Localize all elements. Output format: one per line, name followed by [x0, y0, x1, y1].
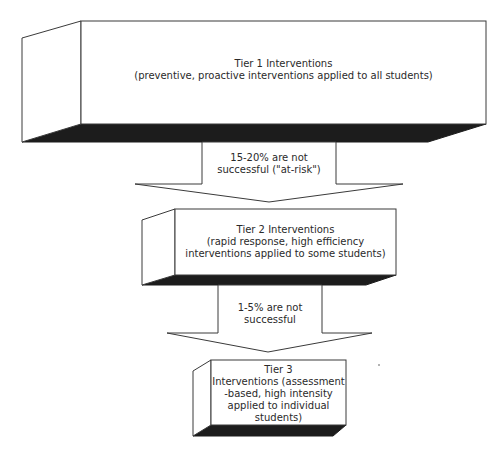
tier-3-description-line-2: -based, high intensity [211, 388, 346, 400]
tier-1-shadow [22, 124, 486, 142]
arrow-1-label: 15-20% are not successful ("at-risk") [202, 152, 336, 176]
tier-3-description-line-4: students) [211, 412, 346, 424]
tier-3-title: Tier 3 [211, 364, 346, 376]
arrow-2-label: 1-5% are not successful [218, 302, 322, 326]
stray-dot [378, 364, 380, 366]
tier-3-description-line-3: applied to individual [211, 400, 346, 412]
arrow-1-line-2: successful ("at-risk") [202, 164, 336, 176]
tier-3-side-face [193, 360, 211, 436]
tier-1-side-face [22, 21, 81, 142]
tier-2-side-face [142, 209, 175, 285]
tier-3-description-line-1: Interventions (assessment [211, 376, 346, 388]
tier-2-description-line-2: interventions applied to some students) [175, 248, 396, 260]
tier-1-description: (preventive, proactive interventions app… [81, 70, 486, 82]
tier-1-title: Tier 1 Interventions [81, 58, 486, 70]
arrow-2-line-2: successful [218, 314, 322, 326]
tier-3-label: Tier 3 Interventions (assessment -based,… [211, 364, 346, 424]
tier-2-description-line-1: (rapid response, high efficiency [175, 236, 396, 248]
tier-1-label: Tier 1 Interventions (preventive, proact… [81, 58, 486, 82]
arrow-2-line-1: 1-5% are not [218, 302, 322, 314]
tier-2-title: Tier 2 Interventions [175, 224, 396, 236]
tier-3-shadow [193, 425, 346, 436]
tier-2-label: Tier 2 Interventions (rapid response, hi… [175, 224, 396, 260]
tier-2-shadow [142, 275, 396, 285]
arrow-1-line-1: 15-20% are not [202, 152, 336, 164]
